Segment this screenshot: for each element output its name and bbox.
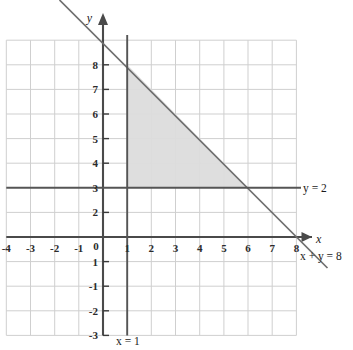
- x-tick-label: 7: [269, 242, 275, 254]
- y-tick-label: 8: [93, 59, 99, 71]
- y-tick-label: 3: [93, 182, 99, 194]
- y-tick-label: 1: [93, 256, 99, 268]
- x-tick-label: -3: [26, 242, 36, 254]
- coordinate-plane-chart: -4 -3 -2 -1 0 1 2 3 4 5 6 7 8 8 7 6 5 4 …: [0, 0, 353, 350]
- y-tick-label: 5: [93, 133, 99, 145]
- x-tick-label: -2: [50, 242, 60, 254]
- x-tick-label: 2: [149, 242, 155, 254]
- y-tick-label: 7: [93, 83, 99, 95]
- x-tick-label: 4: [197, 242, 203, 254]
- x-tick-label: 5: [221, 242, 227, 254]
- y-tick-label: -2: [89, 305, 99, 317]
- line-label-x-plus-y-equals-8: x + y = 8: [300, 250, 342, 263]
- line-label-y-equals-2: y = 2: [303, 182, 327, 195]
- y-tick-label: 2: [93, 206, 99, 218]
- x-tick-label: -1: [74, 242, 83, 254]
- graph-figure: -4 -3 -2 -1 0 1 2 3 4 5 6 7 8 8 7 6 5 4 …: [0, 0, 353, 350]
- x-tick-label: 3: [173, 242, 179, 254]
- y-tick-label: -1: [89, 280, 98, 292]
- origin-label: 0: [93, 240, 99, 252]
- x-tick-label: -4: [2, 242, 12, 254]
- x-tick-label: 1: [124, 242, 130, 254]
- line-label-x-equals-1: x = 1: [116, 335, 140, 347]
- x-tick-label: 8: [294, 242, 300, 254]
- y-tick-label: 4: [93, 157, 99, 169]
- y-axis-label: y: [86, 11, 93, 25]
- y-tick-label: 6: [93, 108, 99, 120]
- y-tick-label: -3: [89, 329, 99, 341]
- x-axis-label: x: [315, 232, 322, 246]
- x-tick-label: 6: [245, 242, 251, 254]
